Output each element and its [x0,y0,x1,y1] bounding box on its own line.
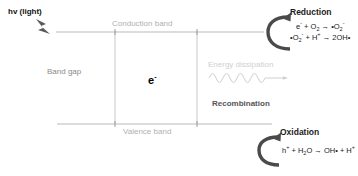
oxidation-equation-1: h+ + H2O → OH• + H+ [282,145,355,157]
oxidation-curved-arrow [259,137,279,165]
electron-label: e- [148,73,156,86]
band-gap-label: Band gap [47,68,81,76]
lightning-bolt-icon [36,19,50,34]
photocatalysis-diagram: hv (light) Conduction band Valence band … [0,0,358,176]
reduction-equation-2: •O2- + H+ → 2OH• [290,32,350,44]
valence-band-label: Valence band [123,128,171,136]
reduction-heading: Reduction [290,8,332,17]
energy-dissipation-arrowhead [283,76,288,80]
conduction-band-label: Conduction band [112,20,173,28]
energy-dissipation-label: Energy dissipation [208,61,273,69]
recombination-label: Recombination [212,100,270,108]
light-source-label: hv (light) [8,8,42,16]
electron-charge-symbol: - [154,73,156,80]
energy-dissipation-wave [209,74,285,83]
oxidation-heading: Oxidation [280,128,319,137]
reduction-curved-arrow [268,17,290,49]
